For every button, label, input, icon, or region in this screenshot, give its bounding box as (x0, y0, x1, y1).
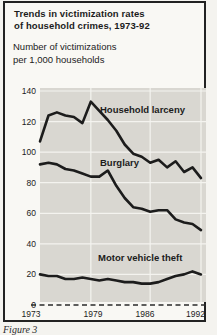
y-axis-description-line1: Number of victimizations (13, 41, 116, 54)
x-tick-label-1979: 1979 (84, 309, 103, 319)
x-tick-label-1986: 1986 (136, 309, 155, 319)
series-label-motor-vehicle-theft: Motor vehicle theft (98, 252, 183, 263)
series-label-household-larceny: Household larceny (100, 104, 186, 115)
y-axis-description: Number of victimizations per 1,000 house… (13, 41, 116, 66)
series-label-burglary: Burglary (100, 157, 140, 168)
line-chart: Household larcenyBurglaryMotor vehicle t… (4, 84, 212, 326)
y-tick-label-140: 140 (22, 86, 36, 96)
y-tick-label-80: 80 (27, 178, 37, 188)
y-tick-label-100: 100 (22, 147, 36, 157)
y-axis-description-line2: per 1,000 households (13, 54, 116, 67)
figure-title-line1: Trends in victimization rates (14, 8, 150, 20)
y-tick-label-20: 20 (27, 269, 37, 279)
y-tick-label-60: 60 (27, 208, 37, 218)
y-tick-label-40: 40 (27, 239, 37, 249)
x-tick-label-1992: 1992 (186, 309, 205, 319)
y-tick-label-120: 120 (22, 117, 36, 127)
figure-caption: Figure 3 (3, 324, 37, 335)
figure-title-line2: of household crimes, 1973-92 (14, 20, 150, 32)
x-tick-label-1973: 1973 (22, 309, 41, 319)
figure-title: Trends in victimization rates of househo… (14, 8, 150, 32)
